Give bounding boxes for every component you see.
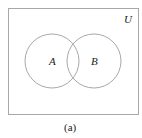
venn-diagram: U A B (a) xyxy=(0,0,142,138)
set-b-label: B xyxy=(91,55,98,67)
universe-rectangle xyxy=(9,9,139,115)
set-a-label: A xyxy=(48,55,56,67)
caption: (a) xyxy=(64,121,77,134)
universe-label: U xyxy=(124,13,133,25)
